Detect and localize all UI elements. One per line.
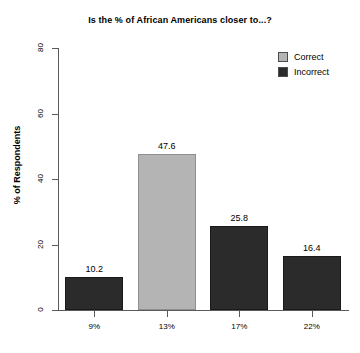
y-tick-label: 40 — [36, 169, 45, 189]
y-tick-label: 0 — [36, 300, 45, 320]
legend-item-correct: Correct — [278, 50, 329, 63]
bar-value-label: 10.2 — [64, 264, 124, 274]
y-tick-label: 60 — [36, 103, 45, 123]
bar-9pct — [65, 277, 123, 310]
chart-legend: CorrectIncorrect — [278, 50, 329, 80]
legend-item-incorrect: Incorrect — [278, 65, 329, 78]
bar-value-label: 47.6 — [137, 141, 197, 151]
y-tick-label: 80 — [36, 38, 45, 58]
chart-title: Is the % of African Americans closer to.… — [0, 15, 360, 25]
x-tick-label: 9% — [64, 322, 124, 331]
legend-label: Correct — [294, 52, 324, 62]
x-tick-mark — [239, 311, 240, 317]
y-tick-mark — [52, 310, 58, 311]
legend-label: Incorrect — [294, 67, 329, 77]
bar-value-label: 25.8 — [209, 213, 269, 223]
x-tick-mark — [167, 311, 168, 317]
chart-figure: Is the % of African Americans closer to.… — [0, 0, 360, 353]
legend-swatch-icon — [278, 52, 288, 62]
bar-value-label: 16.4 — [282, 243, 342, 253]
x-tick-label: 22% — [282, 322, 342, 331]
y-tick-label: 20 — [36, 234, 45, 254]
x-tick-label: 17% — [209, 322, 269, 331]
x-tick-label: 13% — [137, 322, 197, 331]
x-tick-mark — [94, 311, 95, 317]
bar-17pct — [210, 226, 268, 310]
legend-swatch-icon — [278, 67, 288, 77]
y-axis-title: % of Respondents — [12, 115, 22, 215]
x-tick-mark — [312, 311, 313, 317]
bar-22pct — [283, 256, 341, 310]
x-axis-line — [58, 310, 349, 311]
bar-13pct — [138, 154, 196, 310]
